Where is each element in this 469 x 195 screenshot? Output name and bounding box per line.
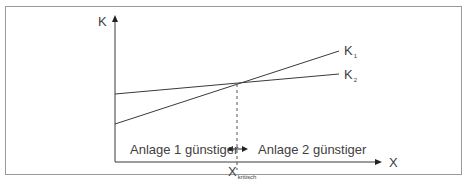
- arrow-right-icon: [242, 146, 248, 152]
- k2-name: K: [344, 67, 353, 82]
- critical-point-label: Xkritisch: [228, 164, 256, 180]
- x-axis-arrow-icon: [375, 159, 382, 165]
- k1-subscript: 1: [354, 53, 357, 59]
- k1-name: K: [344, 43, 353, 58]
- k1-line: [115, 51, 339, 124]
- region-right-label: Anlage 2 günstiger: [258, 142, 366, 157]
- region-left-label: Anlage 1 günstiger: [130, 142, 238, 157]
- k1-label: K1: [344, 43, 357, 59]
- k2-subscript: 2: [354, 77, 357, 83]
- k2-line: [115, 74, 339, 94]
- k2-label: K2: [344, 67, 357, 83]
- critical-x: X: [228, 164, 237, 179]
- critical-subscript: kritisch: [238, 174, 257, 180]
- x-axis-label: X: [389, 155, 398, 170]
- y-axis-arrow-icon: [112, 15, 118, 22]
- y-axis-label: K: [98, 14, 107, 29]
